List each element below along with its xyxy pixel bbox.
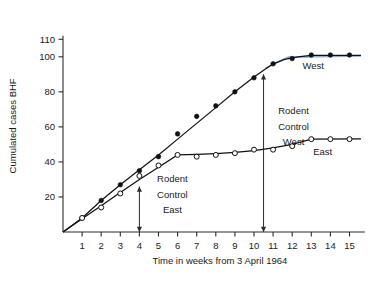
x-tick-label: 12: [287, 240, 298, 251]
x-tick-label: 13: [306, 240, 317, 251]
data-point-west: [309, 53, 314, 58]
data-point-east: [309, 137, 314, 142]
data-point-east: [252, 147, 257, 152]
y-tick-label: 60: [44, 121, 55, 132]
data-point-east: [118, 191, 123, 196]
y-axis-tick-labels: 20406080100110: [39, 34, 55, 203]
data-point-west: [175, 132, 180, 137]
y-axis-ticks: [59, 39, 64, 197]
chart-figure: 20406080100110 123456789101112131415 Rod…: [0, 0, 387, 284]
x-tick-label: 2: [99, 240, 104, 251]
data-point-west: [99, 198, 104, 203]
x-tick-label: 14: [325, 240, 336, 251]
x-tick-label: 15: [344, 240, 355, 251]
annotation-text-line: Rodent: [157, 173, 188, 184]
x-tick-label: 11: [268, 240, 278, 251]
series-line-west: [63, 55, 361, 232]
y-tick-label: 20: [44, 191, 55, 202]
data-point-west: [252, 76, 257, 81]
data-point-east: [137, 173, 142, 178]
y-tick-label: 40: [44, 156, 55, 167]
data-point-west: [194, 114, 199, 119]
data-point-west: [271, 62, 276, 67]
annotation-text-line: Control: [278, 121, 309, 132]
y-tick-label: 110: [40, 34, 55, 45]
data-point-west: [214, 104, 219, 109]
x-tick-label: 8: [213, 240, 218, 251]
data-point-west: [347, 53, 352, 58]
x-axis-title: Time in weeks from 3 April 1964: [152, 255, 287, 266]
x-axis-tick-labels: 123456789101112131415: [79, 240, 354, 251]
data-point-west: [156, 154, 161, 159]
data-point-west: [118, 182, 123, 187]
annotation-texts: RodentControlEastRodentControlWest: [157, 105, 309, 215]
data-point-east: [175, 152, 180, 157]
data-point-east: [80, 215, 85, 220]
data-point-west: [290, 56, 295, 61]
x-tick-label: 4: [137, 240, 142, 251]
annotation-arrow-head-bottom: [261, 227, 266, 232]
x-axis-ticks: [82, 232, 349, 237]
series-inline-label: West: [302, 60, 324, 71]
data-point-east: [213, 152, 218, 157]
data-point-east: [271, 147, 276, 152]
x-tick-label: 7: [194, 240, 199, 251]
series-inline-label: East: [313, 146, 332, 157]
x-tick-label: 5: [156, 240, 161, 251]
data-point-west: [328, 53, 333, 58]
data-point-east: [232, 151, 237, 156]
annotation-arrow-head-top: [261, 74, 266, 79]
data-point-east: [347, 137, 352, 142]
annotation-arrow-head-top: [137, 186, 142, 191]
data-point-west: [233, 90, 238, 95]
x-tick-label: 10: [249, 240, 260, 251]
data-point-east: [194, 154, 199, 159]
annotation-text-line: East: [163, 204, 182, 215]
annotation-text-line: West: [283, 136, 305, 147]
data-point-east: [99, 205, 104, 210]
y-axis-title: Cumulated cases BHF: [7, 78, 18, 173]
annotation-text-line: Control: [157, 189, 188, 200]
y-tick-label: 100: [39, 51, 55, 62]
x-tick-label: 1: [79, 240, 84, 251]
x-tick-label: 6: [175, 240, 180, 251]
data-point-west: [137, 168, 142, 173]
series-markers-east: [80, 137, 352, 221]
data-point-east: [328, 137, 333, 142]
x-tick-label: 3: [118, 240, 123, 251]
x-tick-label: 9: [232, 240, 237, 251]
annotation-arrow-head-bottom: [137, 227, 142, 232]
annotation-arrows: [137, 74, 266, 232]
annotation-text-line: Rodent: [278, 105, 309, 116]
y-tick-label: 80: [44, 86, 55, 97]
data-point-east: [156, 163, 161, 168]
